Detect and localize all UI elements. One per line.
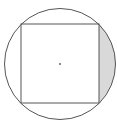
geometry-figure bbox=[0, 0, 117, 122]
center-point bbox=[59, 63, 61, 65]
